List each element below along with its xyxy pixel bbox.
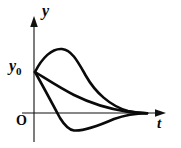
curve-monotonic-response: [35, 72, 147, 113]
origin-label: O: [16, 114, 27, 128]
initial-value-subscript: 0: [16, 65, 22, 77]
initial-value-label: y0: [9, 58, 22, 77]
up-arrow-icon: [30, 16, 38, 27]
t-axis-label: t: [157, 116, 161, 131]
plot-canvas: [0, 0, 181, 148]
y-axis-label: y: [42, 3, 49, 19]
figure-container: y t O y0: [0, 0, 181, 148]
